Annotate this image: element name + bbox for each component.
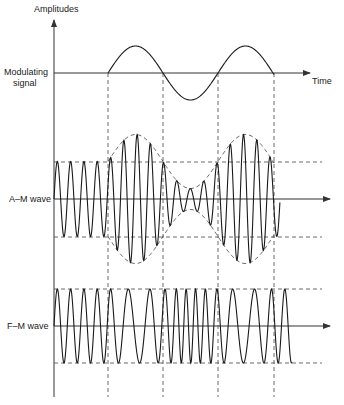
modulating-label-1: Modulating [4,67,48,77]
modulating-label-2: signal [13,78,37,88]
am-envelope-top [108,135,274,189]
x-axis-label: Time [312,76,332,86]
modulation-diagram: Amplitudes Time Modulating signal A–M wa… [0,0,344,405]
am-label: A–M wave [9,194,51,204]
y-axis-label: Amplitudes [34,4,79,14]
fm-label: F–M wave [7,321,49,331]
